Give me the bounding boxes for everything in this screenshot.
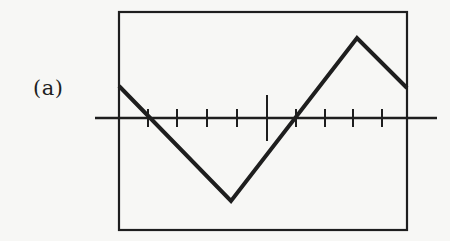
triangle-waveform [119, 38, 407, 201]
waveform-diagram [0, 0, 450, 241]
waveform-figure: (a) [0, 0, 450, 241]
